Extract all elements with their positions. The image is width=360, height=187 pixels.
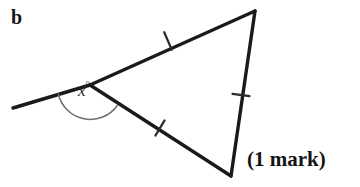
triangle-side-upper [90, 11, 255, 85]
geometry-figure: b x° (1 mark) [0, 0, 360, 187]
tick-mark-upper-side [164, 32, 172, 50]
angle-label-variable: x [78, 81, 86, 100]
triangle-side-lower [90, 85, 231, 176]
tick-mark-right-side [233, 94, 250, 96]
marks-label: (1 mark) [247, 149, 326, 170]
part-label-b: b [11, 7, 22, 27]
degree-symbol-icon: ° [86, 79, 90, 91]
angle-label: x° [78, 80, 90, 99]
